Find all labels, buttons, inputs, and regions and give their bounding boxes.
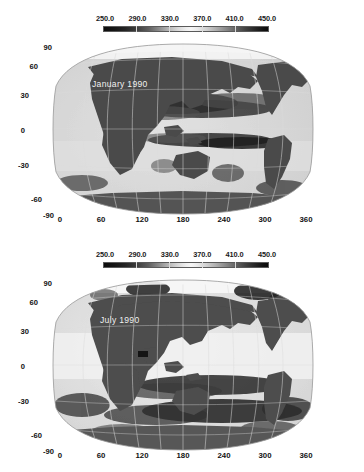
colorbar-tick-labels: 250.0 290.0 330.0 370.0 410.0 450.0: [96, 14, 276, 25]
map-clip: [52, 43, 314, 215]
y-axis-label-m30: -30: [5, 398, 29, 406]
colorbar-tickmark: [235, 262, 236, 268]
colorbar-tickmark: [169, 262, 170, 268]
colorbar-january: 250.0 290.0 330.0 370.0 410.0 450.0: [0, 14, 364, 40]
y-axis-label-30: 30: [9, 328, 29, 336]
x-axis-label-240: 240: [217, 215, 230, 224]
colorbar-tick-3: 370.0: [193, 250, 211, 259]
x-axis-label-360: 360: [299, 215, 312, 224]
colorbar-tick-2: 330.0: [161, 250, 179, 259]
x-axis-july: 0 60 120 180 240 300 360: [52, 451, 314, 463]
colorbar-july: 250.0 290.0 330.0 370.0 410.0 450.0: [0, 250, 364, 276]
colorbar-tick-3: 370.0: [193, 14, 211, 23]
x-axis-label-360: 360: [299, 451, 312, 460]
y-axis-label-m60: -60: [18, 196, 42, 204]
colorbar-gradient: [103, 262, 269, 268]
panel-july: 250.0 290.0 330.0 370.0 410.0 450.0 90 6…: [0, 236, 364, 472]
map-clip: [52, 279, 314, 451]
map-graphic-january: [52, 43, 314, 215]
y-axis-label-90: 90: [32, 44, 52, 52]
colorbar-tickmark: [202, 26, 203, 32]
colorbar-tickmark: [235, 26, 236, 32]
colorbar-tick-4: 410.0: [226, 250, 244, 259]
x-axis-january: 0 60 120 180 240 300 360: [52, 215, 314, 227]
colorbar-tickmark: [136, 262, 137, 268]
x-axis-label-60: 60: [97, 451, 106, 460]
y-axis-label-m90: -90: [30, 212, 54, 220]
colorbar-tick-1: 290.0: [128, 250, 146, 259]
y-axis-label-90: 90: [32, 280, 52, 288]
x-axis-label-300: 300: [258, 215, 271, 224]
colorbar-tick-4: 410.0: [226, 14, 244, 23]
x-axis-label-120: 120: [135, 451, 148, 460]
x-axis-label-300: 300: [258, 451, 271, 460]
colorbar-tick-5: 450.0: [258, 250, 276, 259]
y-axis-label-60: 60: [18, 299, 38, 307]
y-axis-label-60: 60: [18, 63, 38, 71]
colorbar-tick-5: 450.0: [258, 14, 276, 23]
y-axis-label-0: 0: [5, 127, 25, 135]
y-axis-label-m30: -30: [5, 162, 29, 170]
y-axis-label-m60: -60: [18, 432, 42, 440]
colorbar-tickmark: [202, 262, 203, 268]
x-axis-label-240: 240: [217, 451, 230, 460]
y-axis-label-m90: -90: [30, 448, 54, 456]
x-axis-label-60: 60: [97, 215, 106, 224]
y-axis-label-0: 0: [5, 363, 25, 371]
x-axis-label-120: 120: [135, 215, 148, 224]
x-axis-label-180: 180: [176, 451, 189, 460]
x-axis-label-0: 0: [58, 451, 62, 460]
x-axis-label-0: 0: [58, 215, 62, 224]
colorbar-tick-1: 290.0: [128, 14, 146, 23]
map-july: July 1990: [52, 279, 314, 451]
colorbar-tick-0: 250.0: [96, 250, 114, 259]
x-axis-label-180: 180: [176, 215, 189, 224]
colorbar-tick-labels: 250.0 290.0 330.0 370.0 410.0 450.0: [96, 250, 276, 261]
y-axis-label-30: 30: [9, 92, 29, 100]
map-january: January 1990: [52, 43, 314, 215]
colorbar-tick-0: 250.0: [96, 14, 114, 23]
figure-root: 250.0 290.0 330.0 370.0 410.0 450.0 90 6…: [0, 0, 364, 472]
colorbar-tickmark: [136, 26, 137, 32]
map-graphic-july: [52, 279, 314, 451]
colorbar-tick-2: 330.0: [161, 14, 179, 23]
panel-january: 250.0 290.0 330.0 370.0 410.0 450.0 90 6…: [0, 0, 364, 236]
colorbar-tickmark: [169, 26, 170, 32]
colorbar-gradient: [103, 26, 269, 32]
